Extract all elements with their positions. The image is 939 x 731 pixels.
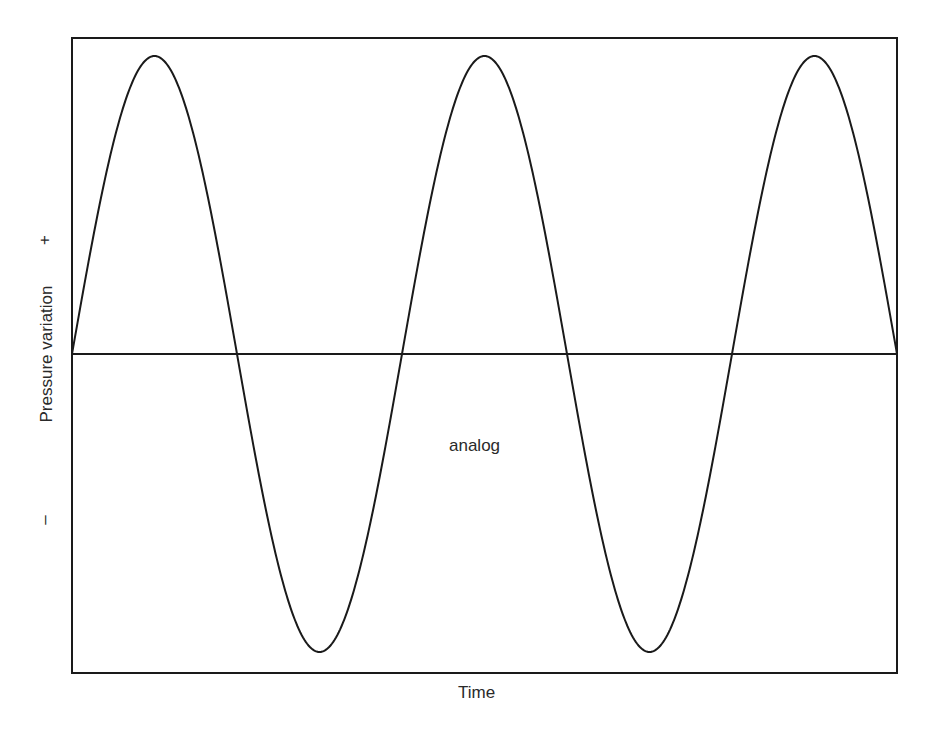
y-axis-label: Pressure variation [37, 285, 57, 422]
y-minus-label: – [35, 515, 55, 524]
chart-canvas [0, 0, 939, 731]
x-axis-label: Time [458, 683, 495, 703]
waveform-annotation: analog [449, 436, 500, 456]
y-plus-label: + [35, 235, 55, 245]
plot-frame [72, 38, 897, 673]
